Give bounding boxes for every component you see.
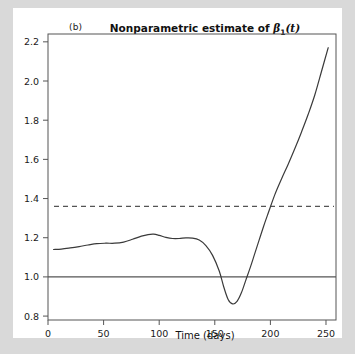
y-tick-label: 2.0	[24, 76, 39, 87]
y-tick-label: 1.8	[24, 115, 39, 126]
x-tick-label: 0	[45, 328, 51, 338]
chart-plot-area: 0.81.01.21.41.61.82.02.2 050100150200250	[13, 8, 342, 338]
y-tick-label: 1.0	[24, 271, 39, 282]
y-tick-label: 1.4	[24, 193, 39, 204]
figure-page: (b) Nonparametric estimate of β1(t) 0.81…	[13, 8, 342, 338]
x-axis-label: Time (days)	[61, 330, 349, 341]
y-axis-ticks: 0.81.01.21.41.61.82.02.2	[24, 36, 48, 321]
beta1-estimate-curve	[54, 48, 329, 304]
y-tick-label: 0.8	[24, 311, 39, 322]
y-tick-label: 1.6	[24, 154, 39, 165]
y-tick-label: 2.2	[24, 36, 39, 47]
y-tick-label: 1.2	[24, 232, 39, 243]
